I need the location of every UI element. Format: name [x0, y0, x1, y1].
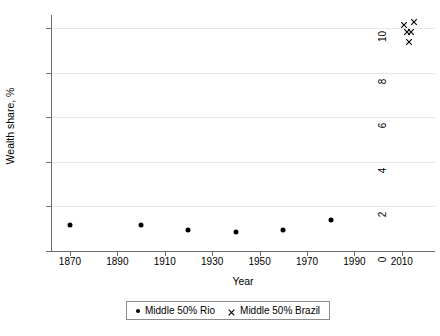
y-axis-tick-label: 10	[377, 27, 388, 47]
data-point-circle	[139, 223, 144, 228]
legend-item: Middle 50% Rio	[136, 305, 215, 316]
data-point-x	[408, 28, 415, 35]
x-axis-tick-label: 1910	[154, 256, 176, 267]
data-point-circle	[233, 230, 238, 235]
data-point-x	[405, 38, 412, 45]
legend-item-label: Middle 50% Brazil	[240, 305, 320, 316]
chart-root: Wealth share, % 0246810 1870189019101930…	[0, 0, 440, 336]
x-axis-tick-label: 1930	[201, 256, 223, 267]
y-axis-tick-label: 8	[377, 71, 388, 91]
x-axis-tick-label: 1970	[296, 256, 318, 267]
legend-item: Middle 50% Brazil	[228, 305, 320, 316]
x-axis-tick-label: 1890	[106, 256, 128, 267]
y-axis-title-text: Wealth share, %	[4, 87, 16, 164]
y-axis-tick-label: 0	[377, 250, 388, 270]
x-axis-title-text: Year	[232, 275, 253, 287]
legend-item-label: Middle 50% Rio	[145, 305, 215, 316]
data-point-circle	[281, 227, 286, 232]
x-axis-title: Year	[51, 275, 435, 287]
data-point-x	[410, 18, 417, 25]
x-axis-tick-label: 2010	[391, 256, 413, 267]
x-axis-tick-label: 1990	[343, 256, 365, 267]
y-axis-title: Wealth share, %	[2, 0, 18, 251]
data-point-circle	[67, 223, 72, 228]
data-point-circle	[328, 217, 333, 222]
y-axis-tick-label: 2	[377, 205, 388, 225]
y-axis-line	[51, 15, 52, 252]
legend-marker-dot-icon	[136, 309, 140, 313]
legend-marker-x-icon	[228, 307, 235, 314]
y-axis-tick-label: 4	[377, 160, 388, 180]
chart-legend: Middle 50% RioMiddle 50% Brazil	[126, 301, 330, 320]
data-point-circle	[186, 227, 191, 232]
x-axis-tick-label: 1950	[248, 256, 270, 267]
y-axis-tick-label: 6	[377, 116, 388, 136]
x-axis-tick-label: 1870	[59, 256, 81, 267]
